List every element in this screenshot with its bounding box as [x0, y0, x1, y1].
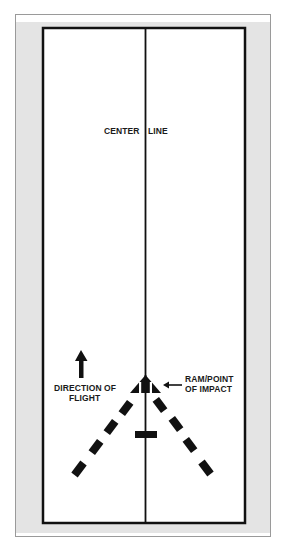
- center-bar: [135, 431, 157, 438]
- direction-label-line2: FLIGHT: [69, 393, 100, 403]
- figure-caption-cropped: [30, 543, 260, 548]
- center-line-label-right: LINE: [148, 126, 168, 136]
- center-line-label-left: CENTER: [104, 126, 140, 136]
- runway-outline: [43, 28, 245, 523]
- runway-diagram: [0, 0, 283, 548]
- impact-label-line2: OF IMPACT: [185, 384, 232, 394]
- direction-label-line1: DIRECTION OF: [54, 383, 116, 393]
- impact-label-line1: RAM/POINT: [185, 374, 234, 384]
